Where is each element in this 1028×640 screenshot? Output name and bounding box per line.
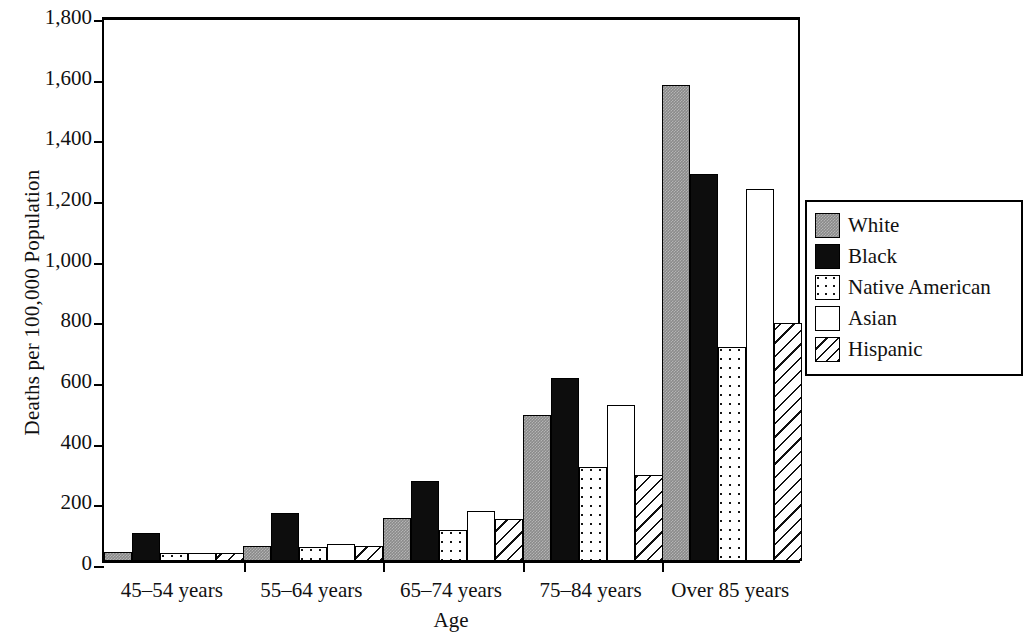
legend-swatch-plain-white — [815, 306, 840, 331]
x-axis-tick-mark — [662, 561, 664, 572]
bar — [188, 553, 216, 561]
bar — [160, 553, 188, 561]
bar — [383, 518, 411, 561]
legend-label: Black — [848, 246, 897, 267]
y-axis-tick-label: 1,000 — [14, 249, 92, 270]
bar — [439, 530, 467, 561]
y-axis-tick-mark — [94, 141, 104, 143]
legend-item: Black — [815, 241, 1013, 272]
legend-item: Native American — [815, 272, 1013, 303]
x-axis-tick-labels: 45–54 years55–64 years65–74 years75–84 y… — [102, 578, 800, 608]
bar — [355, 546, 383, 561]
x-axis-tick-label: 55–64 years — [260, 578, 362, 603]
y-axis-tick-label: 1,600 — [14, 67, 92, 88]
x-axis-tick-mark — [383, 561, 385, 572]
legend: WhiteBlackNative AmericanAsianHispanic — [805, 200, 1023, 376]
plot-inner — [104, 20, 798, 561]
bar — [495, 519, 523, 561]
bar — [132, 533, 160, 561]
bar — [216, 553, 244, 561]
y-axis-tick-mark — [94, 445, 104, 447]
legend-label: Asian — [848, 308, 897, 329]
y-axis-tick-mark — [94, 20, 104, 22]
bar — [299, 547, 327, 561]
legend-label: White — [848, 215, 899, 236]
bar — [243, 546, 271, 561]
legend-item: Hispanic — [815, 334, 1013, 365]
legend-swatch-dotted — [815, 275, 840, 300]
bar — [774, 323, 802, 561]
x-axis-tick-mark — [523, 561, 525, 572]
bar — [271, 513, 299, 561]
y-axis-tick-labels: 02004006008001,0001,2001,4001,6001,800 — [14, 0, 92, 640]
bar — [607, 405, 635, 561]
y-axis-tick-mark — [94, 505, 104, 507]
y-axis-tick-label: 600 — [14, 371, 92, 392]
y-axis-tick-label: 1,200 — [14, 189, 92, 210]
bar — [327, 544, 355, 561]
legend-swatch-gray-fill — [815, 213, 840, 238]
y-axis-tick-mark — [94, 323, 104, 325]
bar — [523, 415, 551, 561]
y-axis-tick-label: 800 — [14, 310, 92, 331]
legend-item: White — [815, 210, 1013, 241]
bar — [467, 511, 495, 561]
x-axis-tick-label: 75–84 years — [540, 578, 642, 603]
bar — [104, 552, 132, 561]
y-axis-tick-label: 1,800 — [14, 7, 92, 28]
legend-label: Hispanic — [848, 339, 923, 360]
x-axis-tick-label: 45–54 years — [121, 578, 223, 603]
y-axis-tick-mark — [94, 384, 104, 386]
legend-item: Asian — [815, 303, 1013, 334]
plot-area — [102, 17, 800, 563]
y-axis-tick-label: 0 — [14, 553, 92, 574]
y-axis-tick-mark — [94, 566, 104, 568]
legend-swatch-diagonal-hatch — [815, 337, 840, 362]
y-axis-tick-mark — [94, 263, 104, 265]
bar — [635, 475, 663, 561]
y-axis-tick-mark — [94, 202, 104, 204]
x-axis-tick-label: 65–74 years — [400, 578, 502, 603]
x-axis-tick-mark — [244, 561, 246, 572]
y-axis-tick-label: 200 — [14, 492, 92, 513]
bar — [579, 467, 607, 561]
bar — [746, 189, 774, 561]
bar — [690, 174, 718, 561]
legend-swatch-solid-black — [815, 244, 840, 269]
bar — [662, 85, 690, 561]
y-axis-tick-label: 1,400 — [14, 128, 92, 149]
legend-label: Native American — [848, 277, 991, 298]
bar-chart-figure: Deaths per 100,000 Population 0200400600… — [0, 0, 1028, 640]
bar — [551, 378, 579, 561]
y-axis-tick-mark — [94, 81, 104, 83]
bar — [718, 347, 746, 561]
y-axis-tick-label: 400 — [14, 431, 92, 452]
x-axis-title: Age — [102, 608, 800, 633]
x-axis-tick-label: Over 85 years — [671, 578, 789, 603]
bar — [411, 481, 439, 561]
